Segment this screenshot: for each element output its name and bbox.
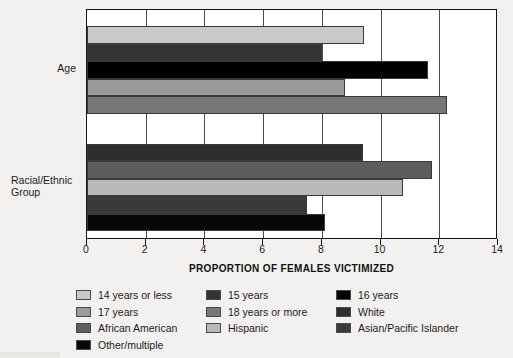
chart-legend: 14 years or less15 years16 years17 years… xyxy=(76,287,513,353)
bar xyxy=(87,79,345,97)
legend-item-label: African American xyxy=(98,322,177,334)
legend-swatch-icon xyxy=(336,307,351,317)
bar xyxy=(87,61,428,79)
legend-item-label: Asian/Pacific Islander xyxy=(358,322,458,334)
category-label-age: Age xyxy=(57,62,76,75)
legend-swatch-icon xyxy=(76,323,91,333)
x-axis-tick-label: 6 xyxy=(247,243,277,255)
legend-swatch-icon xyxy=(336,290,351,300)
legend-item: 18 years or more xyxy=(206,306,336,318)
legend-swatch-icon xyxy=(76,290,91,300)
legend-row: 14 years or less15 years16 years xyxy=(76,287,513,304)
chart-plot-area xyxy=(86,9,497,239)
bar xyxy=(87,179,403,197)
bar xyxy=(87,161,432,179)
category-label-racial-ethnic-group: Racial/Ethnic Group xyxy=(11,174,85,199)
legend-row: 17 years18 years or moreWhite xyxy=(76,304,513,321)
legend-swatch-icon xyxy=(206,307,221,317)
x-axis-title: PROPORTION OF FEMALES VICTIMIZED xyxy=(86,263,497,274)
legend-item-label: Other/multiple xyxy=(98,339,163,351)
x-axis-tick-label: 12 xyxy=(423,243,453,255)
legend-item: Hispanic xyxy=(206,322,336,334)
legend-item-label: 17 years xyxy=(98,306,138,318)
legend-item: 14 years or less xyxy=(76,289,206,301)
legend-swatch-icon xyxy=(76,340,91,350)
page-edge-artifact xyxy=(0,352,60,358)
bars-layer xyxy=(87,10,496,238)
x-axis-tick-label: 4 xyxy=(188,243,218,255)
bar xyxy=(87,26,364,44)
legend-row: Other/multiple xyxy=(76,337,513,354)
bar xyxy=(87,214,325,232)
legend-item-label: Hispanic xyxy=(228,322,268,334)
x-axis-tick-label: 14 xyxy=(482,243,512,255)
legend-swatch-icon xyxy=(336,323,351,333)
legend-item: African American xyxy=(76,322,206,334)
x-axis-tick-label: 0 xyxy=(71,243,101,255)
legend-swatch-icon xyxy=(206,323,221,333)
legend-item-label: White xyxy=(358,306,385,318)
x-axis-tick-label: 8 xyxy=(306,243,336,255)
legend-item: Other/multiple xyxy=(76,339,206,351)
bar xyxy=(87,96,447,114)
legend-swatch-icon xyxy=(206,290,221,300)
bar xyxy=(87,196,307,214)
legend-item-label: 16 years xyxy=(358,289,398,301)
x-axis-tick-label: 2 xyxy=(130,243,160,255)
legend-item-label: 15 years xyxy=(228,289,268,301)
legend-item: White xyxy=(336,306,385,318)
legend-item: 15 years xyxy=(206,289,336,301)
legend-item: 16 years xyxy=(336,289,398,301)
category-label-racial-ethnic-line1: Racial/Ethnic xyxy=(11,174,85,187)
legend-item: Asian/Pacific Islander xyxy=(336,322,458,334)
legend-item-label: 18 years or more xyxy=(228,306,307,318)
legend-item: 17 years xyxy=(76,306,206,318)
bar xyxy=(87,144,363,162)
bar xyxy=(87,44,322,62)
legend-swatch-icon xyxy=(76,307,91,317)
legend-item-label: 14 years or less xyxy=(98,289,172,301)
category-label-racial-ethnic-line2: Group xyxy=(11,186,85,199)
legend-row: African AmericanHispanicAsian/Pacific Is… xyxy=(76,320,513,337)
x-axis-tick-label: 10 xyxy=(365,243,395,255)
